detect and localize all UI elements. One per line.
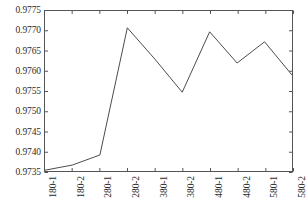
x-tick-label-0: 180-1 — [48, 176, 59, 220]
x-tick-label-7: 480-2 — [242, 176, 253, 220]
x-tick-label-6: 480-1 — [214, 176, 225, 220]
x-tick-label-4: 380-1 — [159, 176, 170, 220]
x-tick-label-9: 580-2 — [297, 176, 308, 220]
x-tick-label-1: 180-2 — [76, 176, 87, 220]
x-axis-tick-labels: 180-1180-2280-1280-2380-1380-2480-1480-2… — [0, 0, 308, 221]
x-tick-label-8: 580-1 — [269, 176, 280, 220]
line-chart-figure: 0.97350.97400.97450.97500.97550.97600.97… — [0, 0, 308, 221]
x-tick-label-3: 280-2 — [131, 176, 142, 220]
x-tick-label-2: 280-1 — [103, 176, 114, 220]
x-tick-label-5: 380-2 — [186, 176, 197, 220]
